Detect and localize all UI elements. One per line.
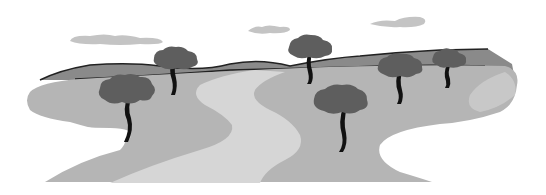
cloud-center — [248, 26, 290, 34]
cloud-right — [370, 17, 425, 27]
cloud-left — [70, 35, 163, 46]
landscape-illustration — [0, 0, 546, 195]
